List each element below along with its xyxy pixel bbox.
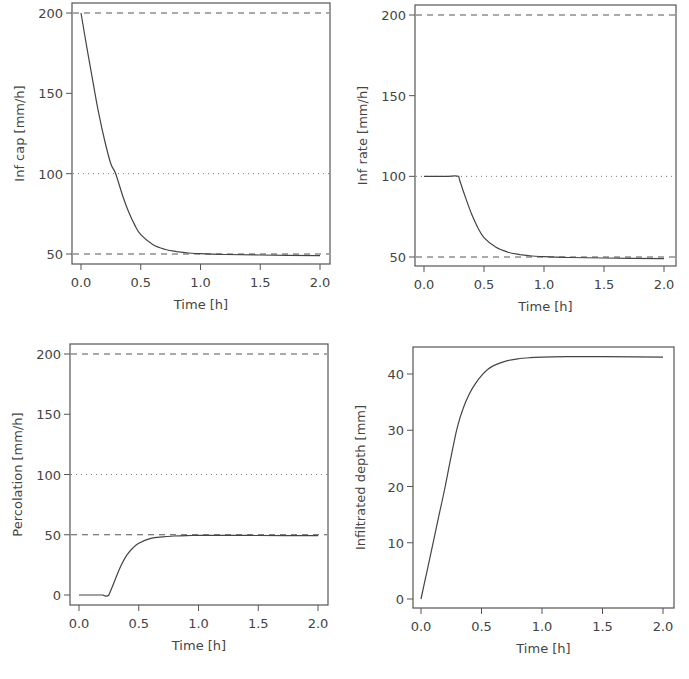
x-axis-label: Time [h] (515, 641, 570, 656)
plot-frame (413, 347, 674, 608)
x-tick-label: 1.0 (190, 275, 211, 290)
x-tick-label: 0.0 (69, 616, 90, 631)
chart-panel-inf-rate: 501001502000.00.51.01.52.0Time [h]Inf ra… (355, 5, 676, 314)
x-tick-label: 0.5 (474, 277, 495, 292)
x-tick-label: 2.0 (310, 275, 331, 290)
series-line-inf-cap (81, 13, 320, 256)
y-axis-label: Infiltrated depth [mm] (353, 405, 368, 550)
series-line-percolation (79, 535, 318, 596)
x-tick-label: 1.5 (248, 616, 269, 631)
x-tick-label: 0.0 (411, 619, 432, 634)
chart-panel-infiltrated-depth: 0102030400.00.51.01.52.0Time [h]Infiltra… (353, 347, 674, 656)
y-axis-label: Inf rate [mm/h] (355, 86, 370, 185)
x-tick-label: 0.5 (471, 619, 492, 634)
x-axis-label: Time [h] (173, 297, 228, 312)
plot-frame (415, 5, 676, 266)
y-tick-label: 150 (38, 86, 63, 101)
y-tick-label: 10 (387, 536, 404, 551)
x-axis-label: Time [h] (171, 638, 226, 653)
y-tick-label: 100 (381, 169, 406, 184)
y-tick-label: 30 (387, 423, 404, 438)
y-tick-label: 100 (36, 468, 61, 483)
y-tick-label: 20 (387, 480, 404, 495)
y-tick-label: 200 (381, 8, 406, 23)
y-tick-label: 50 (389, 250, 406, 265)
x-tick-label: 1.5 (594, 277, 615, 292)
x-tick-label: 2.0 (653, 619, 674, 634)
x-tick-label: 2.0 (654, 277, 675, 292)
x-tick-label: 0.5 (130, 275, 151, 290)
x-tick-label: 1.0 (534, 277, 555, 292)
y-tick-label: 200 (38, 6, 63, 21)
x-axis-label: Time [h] (517, 299, 572, 314)
y-axis-label: Inf cap [mm/h] (12, 85, 27, 181)
y-tick-label: 50 (46, 247, 63, 262)
y-tick-label: 0 (396, 592, 404, 607)
plot-frame (72, 3, 330, 264)
x-tick-label: 0.5 (128, 616, 149, 631)
y-tick-label: 150 (36, 407, 61, 422)
x-tick-label: 0.0 (414, 277, 435, 292)
y-tick-label: 40 (387, 367, 404, 382)
x-tick-label: 2.0 (308, 616, 329, 631)
chart-panel-inf-cap: 501001502000.00.51.01.52.0Time [h]Inf ca… (12, 3, 330, 312)
x-tick-label: 1.5 (592, 619, 613, 634)
plot-frame (70, 344, 328, 605)
figure-canvas: 501001502000.00.51.01.52.0Time [h]Inf ca… (0, 0, 689, 679)
y-axis-label: Percolation [mm/h] (10, 412, 25, 536)
x-tick-label: 1.0 (532, 619, 553, 634)
x-tick-label: 0.0 (71, 275, 92, 290)
y-tick-label: 150 (381, 89, 406, 104)
y-tick-label: 200 (36, 347, 61, 362)
series-line-inf-rate (424, 176, 664, 259)
series-line-infiltrated-depth (421, 357, 663, 599)
y-tick-label: 50 (44, 528, 61, 543)
x-tick-label: 1.0 (188, 616, 209, 631)
x-tick-label: 1.5 (250, 275, 271, 290)
chart-panel-percolation: 0501001502000.00.51.01.52.0Time [h]Perco… (10, 344, 328, 653)
y-tick-label: 0 (53, 588, 61, 603)
y-tick-label: 100 (38, 167, 63, 182)
